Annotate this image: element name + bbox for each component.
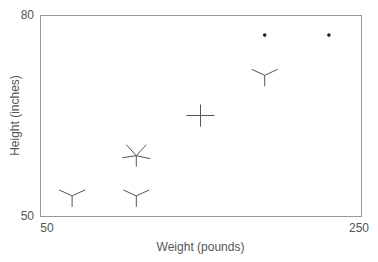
data-point-three-ray-y bbox=[59, 190, 85, 207]
x-tick-max: 250 bbox=[349, 221, 369, 235]
y-axis-label: Height (inches) bbox=[8, 75, 22, 156]
data-point-three-ray-y bbox=[252, 69, 278, 86]
x-axis-label: Weight (pounds) bbox=[157, 240, 245, 254]
data-point-four-ray-plus bbox=[187, 105, 215, 127]
data-point-dot bbox=[327, 33, 331, 37]
x-tick-min: 50 bbox=[40, 221, 54, 235]
scatter-chart: 80 50 50 250 Weight (pounds) Height (inc… bbox=[0, 0, 378, 262]
y-tick-max: 80 bbox=[21, 8, 35, 22]
data-points bbox=[59, 33, 331, 207]
data-point-three-ray-y bbox=[123, 190, 149, 207]
y-tick-min: 50 bbox=[21, 209, 35, 223]
data-point-dot bbox=[263, 33, 267, 37]
data-point-five-ray-star bbox=[122, 145, 150, 167]
